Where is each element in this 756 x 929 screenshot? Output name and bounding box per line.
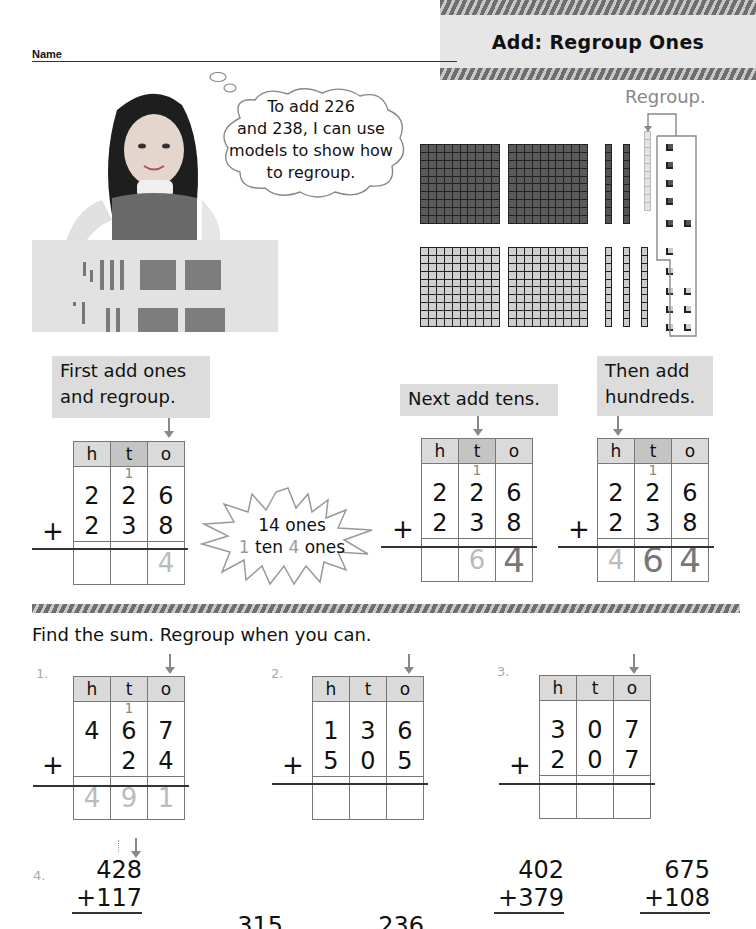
- burst-ten-digit: 1: [239, 537, 250, 557]
- header-o: o: [614, 676, 651, 701]
- problem-number: 1.: [36, 666, 48, 681]
- digit: 2: [550, 746, 565, 774]
- digit: 6: [397, 717, 412, 745]
- step-2-callout: Next add tens.: [400, 384, 558, 416]
- sum-cell[interactable]: 4: [598, 539, 635, 582]
- carry-digit: 1: [111, 702, 147, 716]
- header-o: o: [148, 677, 185, 702]
- header-h: h: [422, 439, 459, 464]
- practice-table-2: hto 15 30 65: [312, 676, 424, 820]
- digit: 5: [397, 747, 412, 775]
- problem-number: 2.: [271, 666, 283, 681]
- regroup-label: Regroup.: [625, 86, 706, 107]
- header-o: o: [148, 442, 185, 467]
- plus-sign: +: [568, 514, 590, 544]
- addend-bottom: +379: [494, 884, 564, 914]
- addend-top: 675: [640, 856, 710, 884]
- sum-rule: [499, 783, 655, 785]
- header-t: t: [350, 677, 387, 702]
- digit: 3: [121, 512, 136, 540]
- vertical-problem: 236 + 16: [354, 856, 424, 929]
- down-arrow-icon: [135, 838, 137, 852]
- header-t: t: [111, 677, 148, 702]
- sum-rule: [381, 546, 537, 548]
- sum-cell[interactable]: 9: [111, 777, 148, 820]
- bubble-line-1: To add 226: [218, 96, 404, 118]
- thought-bubble-text: To add 226 and 238, I can use models to …: [218, 96, 404, 184]
- sum-cell[interactable]: [614, 776, 651, 819]
- addend-top: 402: [494, 856, 564, 884]
- vertical-problem: 315 + 75: [213, 856, 283, 929]
- problem-number: 3.: [497, 664, 509, 679]
- name-label: Name: [32, 48, 62, 60]
- digit: 8: [158, 512, 173, 540]
- header-stripe-top: [440, 0, 756, 15]
- down-arrow-icon: [617, 416, 619, 430]
- carry-digit: 1: [459, 464, 495, 478]
- digit: 2: [645, 479, 660, 507]
- practice-table-3: hto 32 00 77: [539, 675, 651, 819]
- regroup-bracket: [640, 110, 700, 340]
- thought-bubble-dots: [208, 72, 244, 94]
- digit: 6: [158, 482, 173, 510]
- digit: 0: [587, 746, 602, 774]
- sum-cell[interactable]: 4: [74, 777, 111, 820]
- sum-rule: [558, 546, 714, 548]
- tens-rod: [605, 247, 612, 327]
- section-divider: [32, 604, 740, 613]
- header-t: t: [459, 439, 496, 464]
- digit: 0: [360, 747, 375, 775]
- sum-cell[interactable]: 4: [672, 539, 709, 582]
- header-t: t: [577, 676, 614, 701]
- sum-cell[interactable]: [422, 539, 459, 582]
- vertical-problem: 428 +117: [72, 856, 142, 914]
- digit: 2: [121, 747, 136, 775]
- place-value-table-step-1: hto 22 123 68 4: [73, 441, 185, 585]
- step-3-callout: Then add hundreds.: [597, 356, 713, 416]
- place-value-table-step-2: hto 22 123 68 64: [421, 438, 533, 582]
- name-input-line[interactable]: [32, 61, 457, 62]
- addend-top: 315: [213, 912, 283, 929]
- step-1-callout: First add ones and regroup.: [52, 356, 210, 418]
- sum-cell[interactable]: 4: [496, 539, 533, 582]
- hundreds-flat: [508, 247, 588, 327]
- digit: 2: [84, 482, 99, 510]
- sum-cell[interactable]: 6: [635, 539, 672, 582]
- hundreds-flat: [420, 247, 500, 327]
- bubble-line-3: models to show how: [218, 140, 404, 162]
- digit: 4: [84, 717, 99, 745]
- vertical-problem: 402 +379: [494, 856, 564, 914]
- digit: 2: [121, 482, 136, 510]
- problem-number: 4.: [33, 868, 45, 883]
- sum-cell[interactable]: [577, 776, 614, 819]
- sum-cell[interactable]: 6: [459, 539, 496, 582]
- hundreds-flat: [420, 144, 500, 224]
- hundreds-flat: [508, 144, 588, 224]
- tens-rod: [605, 144, 612, 224]
- header-title-box: Add: Regroup Ones: [440, 15, 756, 68]
- digit: 0: [587, 716, 602, 744]
- practice-table-1: hto 4 162 74 491: [73, 676, 185, 820]
- callout-line: and regroup.: [60, 384, 202, 410]
- addend-bottom: +108: [640, 884, 710, 914]
- header-h: h: [74, 677, 111, 702]
- sum-cell[interactable]: [540, 776, 577, 819]
- plus-sign: +: [42, 750, 64, 780]
- burst-line-2: 1 ten 4 ones: [236, 536, 348, 558]
- plus-sign: +: [509, 750, 531, 780]
- header-t: t: [635, 439, 672, 464]
- digit: 1: [323, 717, 338, 745]
- digit: 7: [158, 717, 173, 745]
- digit: 3: [360, 717, 375, 745]
- digit: 3: [645, 509, 660, 537]
- addend-top: 236: [354, 912, 424, 929]
- sum-rule: [272, 783, 428, 785]
- header-t: t: [111, 442, 148, 467]
- bubble-line-2: and 238, I can use: [218, 118, 404, 140]
- digit: 8: [506, 509, 521, 537]
- digit: 6: [506, 479, 521, 507]
- carry-digit: 1: [635, 464, 671, 478]
- vertical-problem: 675 +108: [640, 856, 710, 914]
- digit: 3: [469, 509, 484, 537]
- sum-cell[interactable]: 1: [148, 777, 185, 820]
